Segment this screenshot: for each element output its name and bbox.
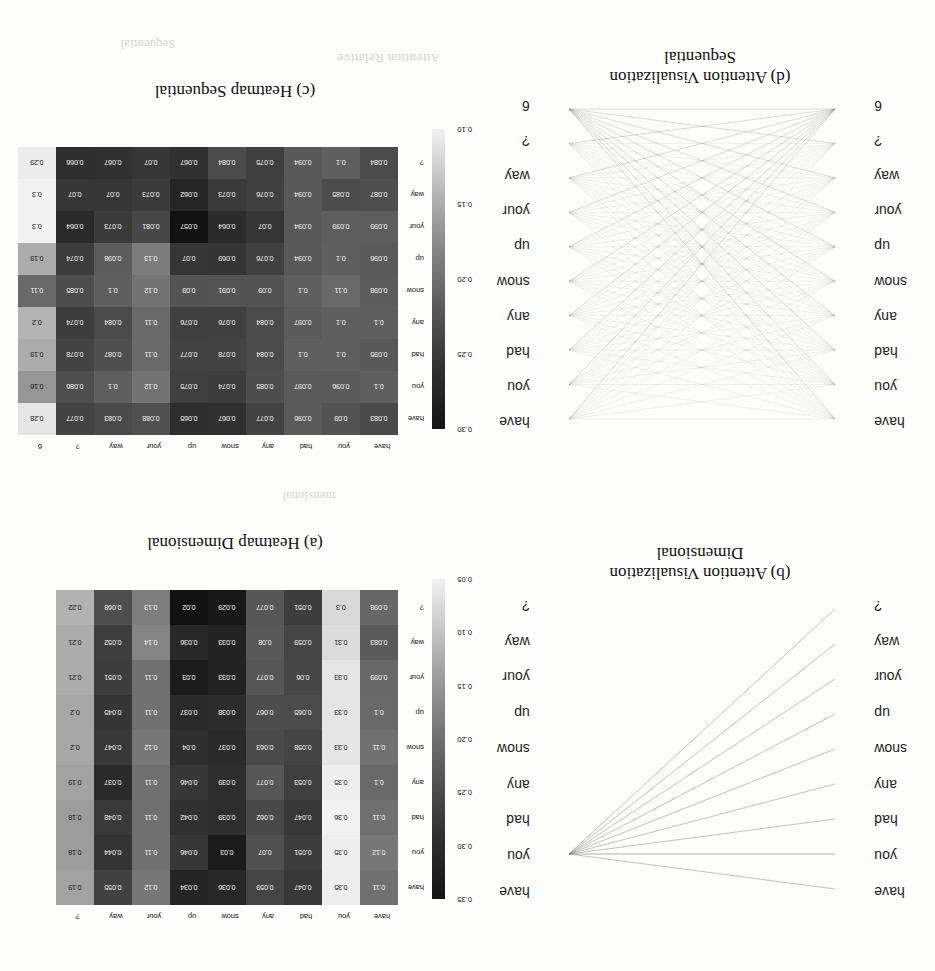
heatmap-row: any0.10.10.0970.0840.0760.0760.110.0840.… <box>18 307 427 339</box>
panel-attention-viz-dimensional: haveyouhadanysnowupyourway? haveyouhadan… <box>480 531 925 921</box>
heatmap-cell: 0.19 <box>18 339 56 371</box>
caption-a: (a) Heatmap Dimensional <box>55 533 415 553</box>
heatmap-cell: 0.12 <box>132 730 170 765</box>
attention-viz-d: haveyouhadanysnowupyourway?6 haveyouhada… <box>497 99 907 429</box>
colorbar-a-ticks: 0.050.100.150.200.250.300.35 <box>445 579 475 899</box>
heatmap-row: way0.0870.0850.0940.0760.0730.0620.0730.… <box>18 179 427 211</box>
heatmap-cell: 0.036 <box>208 870 246 905</box>
heatmap-cell: 0.037 <box>170 695 208 730</box>
heatmap-cell: 0.081 <box>132 211 170 243</box>
heatmap-cell: 0.099 <box>360 660 398 695</box>
heatmap-row-label: way <box>398 191 427 200</box>
heatmap-cell: 0.086 <box>56 371 94 403</box>
panel-heatmap-dimensional: 0.050.100.150.200.250.300.35 haveyouhada… <box>10 531 475 921</box>
heatmap-c: haveyouhadanysnowupyourway?6 have0.0830.… <box>18 147 427 451</box>
heatmap-cell: 0.068 <box>94 590 132 625</box>
heatmap-row: have0.0830.090.0960.0770.0670.0650.0880.… <box>18 403 427 435</box>
heatmap-cell: 0.055 <box>94 870 132 905</box>
heatmap-cell: 0.03 <box>170 660 208 695</box>
heatmap-cell: 0.084 <box>246 339 284 371</box>
heatmap-cell: 0.19 <box>56 765 94 800</box>
attention-token: you <box>874 849 897 863</box>
heatmap-row: your0.0990.330.060.0770.0330.030.110.051… <box>56 660 427 695</box>
heatmap-cell: 0.046 <box>170 765 208 800</box>
heatmap-cell: 0.062 <box>246 800 284 835</box>
panel-heatmap-sequential: 0.100.150.200.250.30 haveyouhadanysnowup… <box>10 51 475 451</box>
caption-b-line1: (b) Attention Visualization <box>610 564 791 583</box>
heatmap-cell: 0.1 <box>94 371 132 403</box>
heatmap-row-label: you <box>398 383 427 392</box>
heatmap-cell: 0.047 <box>284 870 322 905</box>
heatmap-cell: 0.097 <box>284 307 322 339</box>
heatmap-row-label: have <box>398 883 427 892</box>
heatmap-cell: 0.04 <box>170 730 208 765</box>
heatmap-row-label: any <box>398 778 427 787</box>
heatmap-cell: 0.22 <box>56 590 94 625</box>
heatmap-row-label: any <box>398 319 427 328</box>
caption-d-line1: (d) Attention Visualization <box>610 68 791 87</box>
heatmap-cell: 0.077 <box>246 765 284 800</box>
heatmap-row: you0.10.0960.0970.0850.0740.0750.120.10.… <box>18 371 427 403</box>
colorbar-tick-label: 0.15 <box>457 681 472 690</box>
heatmap-row-label: snow <box>398 743 427 752</box>
heatmap-cell: 0.073 <box>94 211 132 243</box>
heatmap-row: up0.10.330.0650.0670.0380.0370.110.0450.… <box>56 695 427 730</box>
attention-token: ? <box>522 599 530 613</box>
attention-token: way <box>874 635 899 649</box>
heatmap-cell: 0.096 <box>322 371 360 403</box>
attention-token: 6 <box>874 99 882 113</box>
heatmap-cell: 0.33 <box>322 660 360 695</box>
heatmap-cell: 0.084 <box>94 307 132 339</box>
heatmap-cell: 0.034 <box>170 870 208 905</box>
heatmap-c-column-headers: haveyouhadanysnowupyourway?6 <box>18 435 427 451</box>
attention-edges-b <box>497 599 907 899</box>
heatmap-row-label: had <box>398 351 427 360</box>
heatmap-cell: 0.35 <box>322 835 360 870</box>
heatmap-cell: 0.076 <box>208 307 246 339</box>
attention-token: way <box>505 169 530 183</box>
heatmap-cell: 0.098 <box>94 243 132 275</box>
heatmap-column-label: had <box>287 905 325 921</box>
heatmap-row-label: up <box>398 708 427 717</box>
panel-attention-viz-sequential: haveyouhadanysnowupyourway?6 haveyouhada… <box>480 51 925 451</box>
attention-token: way <box>505 635 530 649</box>
heatmap-column-label: any <box>249 905 287 921</box>
heatmap-cell: 0.067 <box>94 147 132 179</box>
heatmap-row: ?0.0980.30.0510.0770.0290.020.130.0680.2… <box>56 590 427 625</box>
heatmap-row-label: have <box>398 415 427 424</box>
heatmap-cell: 0.088 <box>132 403 170 435</box>
heatmap-cell: 0.11 <box>360 870 398 905</box>
heatmap-cell: 0.063 <box>246 730 284 765</box>
attention-edge <box>569 679 835 854</box>
heatmap-cell: 0.18 <box>56 835 94 870</box>
heatmap-cell: 0.1 <box>360 695 398 730</box>
heatmap-cell: 0.051 <box>284 590 322 625</box>
attention-token: have <box>874 885 904 899</box>
heatmap-cell: 0.11 <box>132 307 170 339</box>
heatmap-cell: 0.06 <box>284 660 322 695</box>
heatmap-cell: 0.058 <box>284 730 322 765</box>
heatmap-cell: 0.067 <box>208 403 246 435</box>
heatmap-cell: 0.077 <box>246 660 284 695</box>
heatmap-cell: 0.11 <box>18 275 56 307</box>
heatmap-cell: 0.33 <box>322 730 360 765</box>
heatmap-column-label: snow <box>211 905 249 921</box>
heatmap-cell: 0.35 <box>322 765 360 800</box>
caption-c: (c) Heatmap Sequential <box>55 81 415 101</box>
attention-token: snow <box>874 742 907 756</box>
attention-token: snow <box>497 275 530 289</box>
attention-token: up <box>514 239 530 253</box>
heatmap-cell: 0.051 <box>284 835 322 870</box>
heatmap-cell: 0.11 <box>360 800 398 835</box>
heatmap-cell: 0.033 <box>208 660 246 695</box>
heatmap-row-label: snow <box>398 287 427 296</box>
attention-viz-b: haveyouhadanysnowupyourway? haveyouhadan… <box>497 599 907 899</box>
heatmap-cell: 0.09 <box>246 275 284 307</box>
attention-token: any <box>507 310 530 324</box>
attention-token: up <box>514 706 530 720</box>
heatmap-cell: 0.077 <box>246 403 284 435</box>
heatmap-cell: 0.085 <box>56 275 94 307</box>
heatmap-cell: 0.078 <box>56 339 94 371</box>
heatmap-column-label: way <box>97 435 135 451</box>
colorbar-a: 0.050.100.150.200.250.300.35 <box>432 579 475 899</box>
